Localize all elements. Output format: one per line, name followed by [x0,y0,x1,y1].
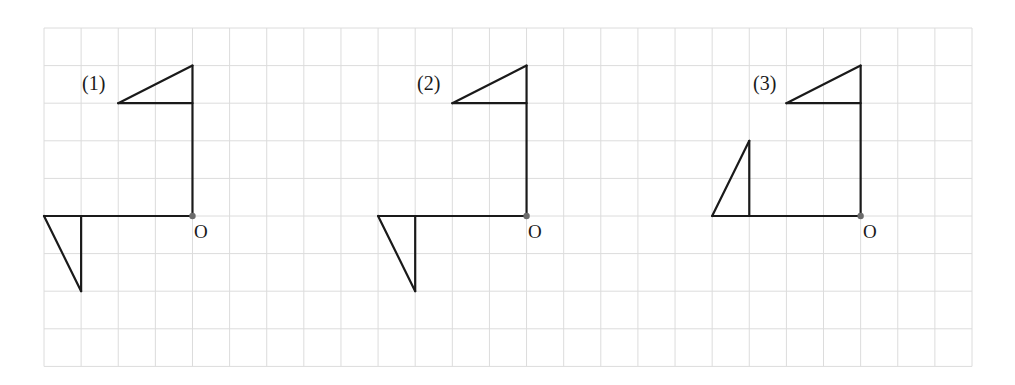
figure-3-label: (3) [753,73,776,93]
figure-2-label: (2) [417,73,440,93]
origin-point [189,213,195,219]
origin-label-2: O [528,222,542,241]
figure-1-label: (1) [82,73,105,93]
figure-3 [712,66,864,220]
origin-point [857,213,863,219]
grid-diagram [0,0,1015,385]
origin-label-1: O [194,222,208,241]
origin-label-3: O [863,222,877,241]
origin-point [523,213,529,219]
